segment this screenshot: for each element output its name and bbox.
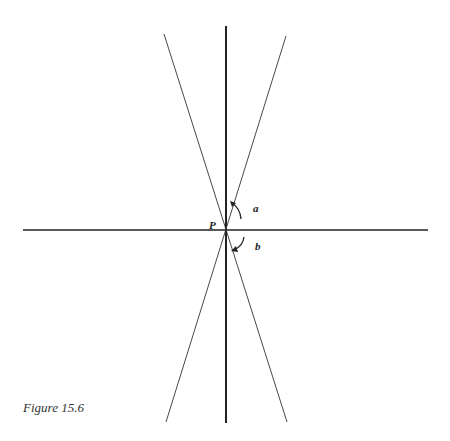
arrow-a-label: a — [253, 202, 259, 214]
figure-caption: Figure 15.6 — [23, 400, 84, 416]
point-p-label: P — [209, 219, 216, 231]
figure-diagram: P a b — [0, 0, 450, 441]
arrow-b-label: b — [255, 240, 261, 252]
arrow-b-icon — [231, 237, 244, 252]
